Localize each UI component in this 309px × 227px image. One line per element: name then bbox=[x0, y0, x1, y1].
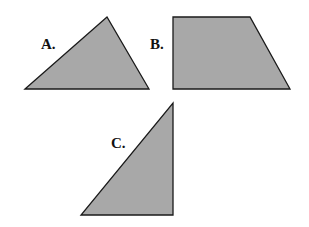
shapes-layer bbox=[0, 0, 309, 227]
shape-c-right-triangle bbox=[81, 103, 173, 215]
shape-a-triangle bbox=[25, 17, 149, 89]
label-b: B. bbox=[150, 37, 164, 52]
label-c: C. bbox=[111, 136, 126, 151]
diagram-canvas: A. B. C. bbox=[0, 0, 309, 227]
label-a: A. bbox=[41, 37, 56, 52]
shape-b-trapezoid bbox=[173, 17, 290, 89]
